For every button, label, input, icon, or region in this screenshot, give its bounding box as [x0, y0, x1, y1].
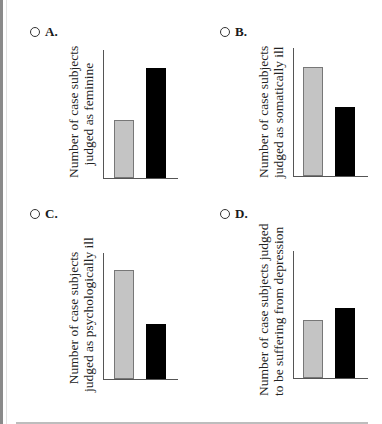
y-axis [103, 50, 104, 178]
x-axis [103, 379, 178, 380]
radio-icon[interactable] [30, 209, 40, 219]
option-d-label: D. [235, 206, 248, 222]
bar-black [335, 107, 355, 176]
bar-gray [114, 270, 134, 379]
bar-black [146, 68, 166, 178]
ylabel-line1: Number of case subjects [66, 50, 81, 178]
left-border [0, 0, 3, 424]
option-b-label: B. [235, 24, 247, 40]
left-border-inner [6, 0, 7, 424]
x-axis [293, 378, 368, 379]
chart-a-ylabel: Number of case subjects judged as femini… [66, 50, 96, 178]
ylabel-line2: to be suffering from depression [271, 230, 286, 396]
radio-icon[interactable] [220, 209, 230, 219]
bar-black [146, 324, 166, 379]
y-axis [103, 253, 104, 379]
x-axis [103, 178, 178, 179]
radio-icon[interactable] [30, 27, 40, 37]
bar-gray [114, 120, 134, 178]
y-axis [293, 48, 294, 176]
bar-gray [303, 67, 323, 176]
ylabel-line2: judged as psychologically ill [81, 244, 96, 392]
option-b[interactable]: B. [220, 24, 247, 40]
x-axis [293, 176, 368, 177]
chart-b-ylabel: Number of case subjects judged as somati… [256, 48, 286, 178]
ylabel-line2: judged as feminine [81, 50, 96, 178]
option-a[interactable]: A. [30, 24, 58, 40]
ylabel-line1: Number of case subjects judged [256, 230, 271, 396]
y-axis [293, 251, 294, 378]
ylabel-line1: Number of case subjects [256, 48, 271, 178]
ylabel-line1: Number of case subjects [66, 244, 81, 392]
chart-c-ylabel: Number of case subjects judged as psycho… [66, 244, 96, 392]
chart-d-ylabel: Number of case subjects judged to be suf… [256, 230, 286, 396]
radio-icon[interactable] [220, 27, 230, 37]
option-c[interactable]: C. [30, 206, 58, 222]
option-c-label: C. [45, 206, 58, 222]
bar-gray [303, 320, 323, 378]
option-d[interactable]: D. [220, 206, 248, 222]
ylabel-line2: judged as somatically ill [271, 48, 286, 178]
option-a-label: A. [45, 24, 58, 40]
bar-black [335, 308, 355, 378]
